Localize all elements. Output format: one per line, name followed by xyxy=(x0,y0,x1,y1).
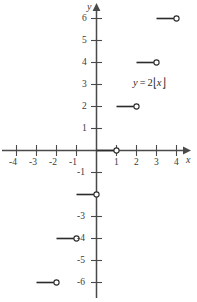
open-circle-endpoint xyxy=(134,104,139,109)
y-tick-label-neg4: -4 xyxy=(77,234,85,244)
y-axis-arrowhead xyxy=(93,3,101,11)
y-tick-label-neg1: -1 xyxy=(77,168,85,178)
equation-lhs: y xyxy=(133,77,138,88)
y-tick-label-5: 5 xyxy=(82,36,87,46)
step-function-graph-figure: -4 -3 -2 -1 1 2 3 4 6 5 4 3 2 1 -1 -3 -4… xyxy=(0,0,197,302)
x-tick-label-2: 2 xyxy=(134,158,139,168)
plot-canvas xyxy=(0,0,197,302)
y-tick-label-neg3: -3 xyxy=(77,212,85,222)
open-circle-endpoint xyxy=(94,192,99,197)
open-circle-endpoint xyxy=(154,60,159,65)
y-tick-label-4: 4 xyxy=(82,58,87,68)
x-tick-label-3: 3 xyxy=(154,158,159,168)
y-axis-label: y xyxy=(87,2,91,12)
floor-bracket-left-icon: ⌊ xyxy=(153,77,157,90)
y-tick-label-6: 6 xyxy=(82,14,87,24)
x-tick-label-neg1: -1 xyxy=(69,158,77,168)
x-tick-label-4: 4 xyxy=(174,158,179,168)
x-tick-label-1: 1 xyxy=(114,158,119,168)
y-tick-label-3: 3 xyxy=(82,80,87,90)
equation-annotation: y=2⌊x⌋ xyxy=(133,78,166,89)
y-tick-label-1: 1 xyxy=(82,124,87,134)
x-tick-label-neg3: -3 xyxy=(29,158,37,168)
x-tick-label-neg2: -2 xyxy=(49,158,57,168)
equation-equals: = xyxy=(140,77,146,88)
y-tick-label-2: 2 xyxy=(82,102,87,112)
y-tick-label-neg5: -5 xyxy=(77,256,85,266)
open-circle-endpoint xyxy=(114,148,119,153)
floor-bracket-right-icon: ⌋ xyxy=(162,77,166,90)
x-axis-label: x xyxy=(186,155,190,165)
open-circle-endpoint xyxy=(54,280,59,285)
y-tick-label-neg6: -6 xyxy=(77,278,85,288)
open-circle-endpoint xyxy=(174,16,179,21)
x-tick-label-neg4: -4 xyxy=(9,158,17,168)
